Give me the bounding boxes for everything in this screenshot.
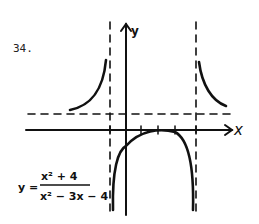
equation-lhs: y = (18, 181, 38, 194)
equation-denominator: x² − 3x − 4 (40, 190, 108, 203)
left-branch-curve (70, 60, 106, 110)
x-axis-label: x (233, 121, 243, 139)
middle-branch-curve (113, 130, 193, 210)
equation-numerator: x² + 4 (41, 170, 78, 183)
right-branch-curve (199, 62, 226, 106)
rational-function-graph: y x y = x² + 4 x² − 3x − 4 (0, 0, 259, 224)
equation: y = x² + 4 x² − 3x − 4 (18, 170, 108, 203)
y-axis-label: y (131, 24, 139, 38)
